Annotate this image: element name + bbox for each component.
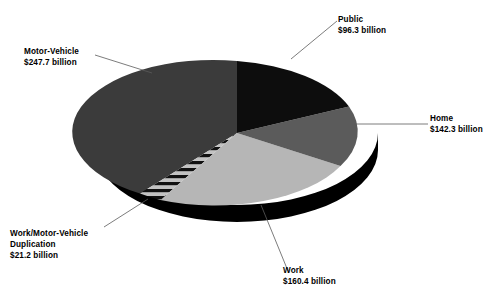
callout-public: Public $96.3 billion (338, 14, 386, 36)
callout-motor-vehicle-value: $247.7 billion (24, 57, 79, 68)
callout-duplication: Work/Motor-Vehicle Duplication $21.2 bil… (10, 228, 88, 262)
callout-home-label: Home (430, 113, 483, 124)
callout-work-label: Work (283, 265, 336, 276)
callout-work-value: $160.4 billion (283, 276, 336, 287)
callout-home: Home $142.3 billion (430, 113, 483, 135)
leader-line-public (291, 21, 337, 59)
callout-public-label: Public (338, 14, 386, 25)
callout-home-value: $142.3 billion (430, 124, 483, 135)
leader-line-motor-vehicle (95, 55, 152, 73)
callout-duplication-label: Work/Motor-Vehicle (10, 228, 88, 239)
callout-public-value: $96.3 billion (338, 25, 386, 36)
callout-work: Work $160.4 billion (283, 265, 336, 287)
pie-chart: Public $96.3 billion Home $142.3 billion… (0, 0, 499, 306)
callout-duplication-label2: Duplication (10, 239, 88, 250)
callout-duplication-value: $21.2 billion (10, 250, 88, 261)
callout-motor-vehicle: Motor-Vehicle $247.7 billion (24, 46, 79, 68)
callout-motor-vehicle-label: Motor-Vehicle (24, 46, 79, 57)
leader-line-duplication (104, 199, 148, 227)
